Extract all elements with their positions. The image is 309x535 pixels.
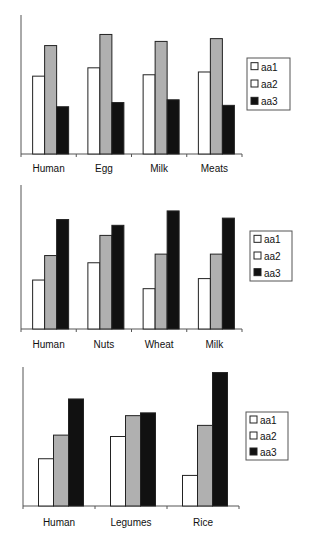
bar-aa2-human — [45, 46, 57, 154]
bar-aa1-nuts — [88, 263, 100, 329]
legend-label-aa1: aa1 — [261, 62, 278, 73]
bar-aa2-nuts — [100, 235, 112, 329]
bar-aa1-egg — [88, 68, 100, 154]
legend-swatch-aa3 — [254, 269, 261, 276]
bar-aa2-human — [45, 256, 57, 329]
bar-aa1-human — [33, 280, 45, 329]
bar-aa2-rice — [198, 425, 213, 506]
legend-swatch-aa2 — [251, 80, 258, 87]
x-tick-label: Meats — [201, 163, 228, 174]
bar-aa1-human — [39, 459, 54, 506]
chart-1: HumanEggMilkMeatsaa1aa2aa3 — [21, 15, 290, 174]
bar-aa1-wheat — [143, 289, 155, 329]
bar-aa2-legumes — [126, 416, 141, 506]
x-tick-label: Milk — [150, 163, 169, 174]
bar-aa2-egg — [100, 34, 112, 154]
bar-aa2-meats — [210, 39, 222, 154]
bar-aa3-wheat — [167, 211, 179, 329]
bar-aa1-legumes — [111, 437, 126, 507]
x-tick-label: Human — [33, 339, 65, 350]
bar-aa2-wheat — [155, 254, 167, 329]
legend-label-aa2: aa2 — [261, 79, 278, 90]
legend-swatch-aa1 — [250, 416, 257, 423]
legend-swatch-aa3 — [250, 448, 257, 455]
bar-aa3-rice — [213, 373, 228, 506]
bar-aa3-legumes — [141, 413, 156, 506]
bar-aa1-milk — [198, 279, 210, 329]
legend-label-aa3: aa3 — [264, 268, 281, 279]
x-tick-label: Wheat — [145, 339, 174, 350]
bar-aa3-nuts — [112, 225, 124, 329]
bar-aa3-meats — [222, 105, 234, 154]
x-tick-label: Rice — [193, 517, 213, 528]
legend-label-aa1: aa1 — [260, 415, 277, 426]
figure: HumanEggMilkMeatsaa1aa2aa3 HumanNutsWhea… — [0, 0, 309, 535]
legend: aa1aa2aa3 — [246, 412, 288, 460]
bar-aa1-rice — [183, 475, 198, 506]
legend-label-aa2: aa2 — [264, 251, 281, 262]
bar-aa3-milk — [222, 218, 234, 329]
bar-aa1-milk — [143, 75, 155, 154]
bar-aa3-human — [69, 399, 84, 506]
x-tick-label: Human — [33, 163, 65, 174]
legend-label-aa3: aa3 — [260, 447, 277, 458]
x-tick-label: Legumes — [110, 517, 151, 528]
legend-swatch-aa1 — [254, 235, 261, 242]
bar-aa1-meats — [198, 72, 210, 154]
bar-aa1-human — [33, 76, 45, 154]
bar-aa2-human — [54, 435, 69, 506]
x-tick-label: Milk — [205, 339, 224, 350]
bar-aa2-milk — [155, 41, 167, 154]
x-tick-label: Nuts — [94, 339, 115, 350]
bar-aa3-milk — [167, 100, 179, 154]
legend: aa1aa2aa3 — [250, 231, 292, 281]
chart-2: HumanNutsWheatMilkaa1aa2aa3 — [21, 185, 292, 350]
legend-label-aa3: aa3 — [261, 96, 278, 107]
legend: aa1aa2aa3 — [247, 58, 290, 110]
legend-swatch-aa1 — [251, 63, 258, 70]
bar-aa3-egg — [112, 103, 124, 154]
bar-aa2-milk — [210, 254, 222, 329]
x-tick-label: Human — [43, 517, 75, 528]
bar-aa3-human — [57, 107, 69, 154]
legend-label-aa1: aa1 — [264, 234, 281, 245]
legend-swatch-aa2 — [254, 252, 261, 259]
bar-aa3-human — [57, 220, 69, 329]
legend-label-aa2: aa2 — [260, 431, 277, 442]
x-tick-label: Egg — [95, 163, 113, 174]
chart-3: HumanLegumesRiceaa1aa2aa3 — [23, 367, 288, 528]
legend-swatch-aa3 — [251, 97, 258, 104]
legend-swatch-aa2 — [250, 432, 257, 439]
